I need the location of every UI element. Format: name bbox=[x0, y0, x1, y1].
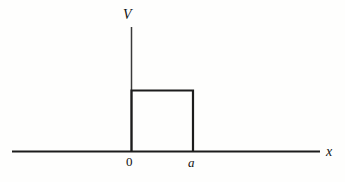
v-axis-label: V bbox=[123, 8, 132, 22]
potential-barrier-outline bbox=[132, 91, 194, 152]
origin-tick-label: 0 bbox=[126, 155, 133, 168]
potential-barrier-figure: V x 0 a bbox=[0, 0, 345, 182]
plot-canvas bbox=[0, 0, 345, 182]
x-axis-label: x bbox=[326, 145, 332, 159]
barrier-width-tick-label: a bbox=[188, 156, 195, 169]
